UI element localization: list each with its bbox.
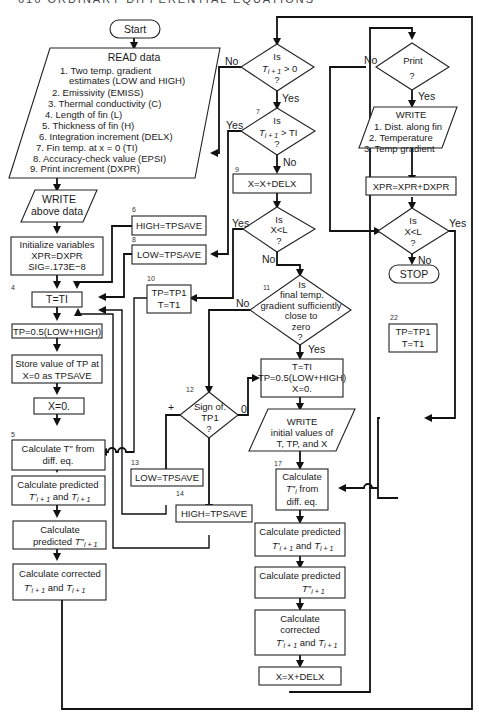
node-x-increment: 9 X=X+DELX — [233, 166, 311, 193]
decision-temp-positive: Is Ti + 1 > 0 ? No Yes — [225, 44, 314, 104]
svg-text:Yes: Yes — [308, 343, 325, 355]
node-x-zero: X=0. — [34, 398, 84, 414]
node-low-tpsave-13: 13 LOW=TPSAVE — [131, 459, 203, 486]
svg-text:12: 12 — [186, 386, 194, 393]
svg-text:Calculate predicted: Calculate predicted — [259, 526, 340, 537]
svg-text:No: No — [262, 253, 276, 265]
svg-text:9: 9 — [235, 166, 239, 173]
svg-text:T=TI: T=TI — [46, 293, 68, 305]
node-calc-predicted-2b: Calculate predicted T″i + 1 — [255, 567, 345, 598]
svg-text:4: 4 — [11, 284, 15, 291]
svg-text:TP=0.5(LOW+HIGH): TP=0.5(LOW+HIGH) — [258, 372, 346, 383]
svg-text:estimates (LOW and HIGH): estimates (LOW and HIGH) — [69, 75, 185, 86]
svg-text:No: No — [364, 54, 378, 66]
node-calc-corrected-2: Calculate corrected T′i + 1 and Ti + 1 — [255, 610, 345, 655]
svg-text:Calculate T″ from: Calculate T″ from — [22, 443, 95, 454]
svg-text:T=TI: T=TI — [292, 361, 312, 372]
svg-text:3. Temp gradient: 3. Temp gradient — [364, 143, 435, 154]
svg-text:No: No — [283, 156, 297, 168]
node-t-eq-ti: 4 T=TI — [11, 284, 82, 307]
node-calc-predicted-1b: Calculate predicted T′i + 1 and Ti + 1 — [255, 523, 345, 556]
node-low-tpsave: 8 LOW=TPSAVE — [132, 236, 206, 264]
node-tp-average: TP=0.5(LOW+HIGH) — [12, 324, 102, 338]
svg-text:close to: close to — [285, 310, 318, 321]
svg-text:+: + — [168, 401, 174, 413]
svg-text:9. Print increment (DXPR): 9. Print increment (DXPR) — [30, 163, 140, 174]
svg-text:3. Thermal conductivity (C): 3. Thermal conductivity (C) — [48, 98, 161, 109]
node-start: Start — [110, 20, 160, 38]
svg-text:?: ? — [274, 138, 279, 149]
node-xpr-increment: XPR=XPR+DXPR — [366, 177, 456, 195]
svg-text:7. Fin temp. at x = 0 (TI): 7. Fin temp. at x = 0 (TI) — [36, 142, 138, 153]
svg-text:T″i from: T″i from — [286, 483, 318, 495]
decision-temp-gt-ti: 7 Is Ti + 1 > TI ? Yes No — [226, 108, 315, 168]
svg-text:22: 22 — [390, 314, 398, 321]
svg-text:T=T1: T=T1 — [158, 299, 180, 310]
svg-text:LOW=TPSAVE: LOW=TPSAVE — [137, 249, 201, 260]
node-tp-tp1: 10 TP=TP1 T=T1 — [147, 275, 191, 313]
svg-text:No: No — [236, 297, 250, 309]
svg-text:Yes: Yes — [449, 217, 466, 229]
svg-text:No: No — [418, 254, 432, 266]
svg-text:?: ? — [274, 74, 279, 85]
svg-text:?: ? — [206, 423, 211, 434]
node-calc-second-deriv-17: 17 Calculate T″i from diff. eq. — [274, 460, 328, 510]
svg-text:Sign of.: Sign of. — [194, 401, 226, 412]
svg-text:0: 0 — [241, 403, 247, 415]
svg-text:Calculate: Calculate — [40, 524, 80, 535]
svg-text:X=X+DELX: X=X+DELX — [276, 671, 325, 682]
svg-text:1. Dist. along fin: 1. Dist. along fin — [374, 121, 442, 132]
svg-text:T, TP, and X: T, TP, and X — [277, 438, 329, 449]
svg-text:diff. eq.: diff. eq. — [43, 455, 74, 466]
node-high-tpsave-14: 14 HIGH=TPSAVE — [176, 490, 252, 522]
svg-text:Is: Is — [409, 215, 417, 226]
svg-text:Print: Print — [403, 55, 423, 66]
svg-text:Store value of TP at: Store value of TP at — [15, 358, 99, 369]
svg-text:Initialize variables: Initialize variables — [20, 239, 95, 250]
svg-text:?: ? — [410, 237, 415, 248]
node-reinitialize: T=TI TP=0.5(LOW+HIGH) X=0. — [258, 359, 346, 397]
flowchart: Start READ data 1. Two temp. gradient es… — [0, 0, 479, 714]
svg-text:XPR=DXPR: XPR=DXPR — [31, 250, 83, 261]
svg-text:READ data: READ data — [108, 51, 161, 63]
svg-text:Yes: Yes — [226, 119, 243, 131]
svg-text:XPR=XPR+DXPR: XPR=XPR+DXPR — [373, 181, 450, 192]
svg-text:4. Length of fin (L): 4. Length of fin (L) — [45, 109, 122, 120]
decision-gradient-zero: 11 Is final temp. gradient sufficiently … — [236, 275, 351, 355]
svg-text:LOW=TPSAVE: LOW=TPSAVE — [135, 472, 199, 483]
svg-text:2. Temperature: 2. Temperature — [369, 132, 433, 143]
node-calc-second-deriv: 5 Calculate T″ from diff. eq. — [11, 431, 105, 470]
svg-text:TP=0.5(LOW+HIGH): TP=0.5(LOW+HIGH) — [13, 326, 101, 337]
svg-text:diff. eq.: diff. eq. — [287, 496, 318, 507]
node-read-data: READ data 1. Two temp. gradient estimate… — [9, 48, 220, 178]
node-stop: STOP — [389, 265, 439, 283]
node-initialize: Initialize variables XPR=DXPR SIG=.173E−… — [11, 237, 103, 275]
svg-text:T=T1: T=T1 — [402, 338, 424, 349]
node-calc-predicted-1: Calculate predicted T′i + 1 and Ti + 1 — [12, 476, 105, 505]
decision-print: Print ? No Yes — [364, 43, 449, 102]
svg-text:2. Emissivity (EMISS): 2. Emissivity (EMISS) — [52, 87, 143, 98]
svg-text:Yes: Yes — [232, 217, 249, 229]
svg-text:8: 8 — [132, 236, 136, 243]
node-write-above: WRITE above data — [21, 190, 97, 222]
svg-text:TP=TP1: TP=TP1 — [151, 287, 186, 298]
svg-text:above data: above data — [31, 205, 83, 217]
node-write-initial: WRITE initial values of T, TP, and X — [249, 409, 355, 451]
node-calc-corrected: Calculate corrected T′i + 1 and Ti + 1 — [13, 564, 106, 600]
decision-sign-tp1: 12 Sign of. TP1 ? + 0 — [168, 386, 247, 438]
svg-text:?: ? — [297, 331, 302, 342]
svg-text:SIG=.173E−8: SIG=.173E−8 — [28, 261, 86, 272]
svg-text:X<L: X<L — [270, 224, 287, 235]
svg-text:X=X+DELX: X=X+DELX — [248, 178, 297, 189]
svg-text:Calculate: Calculate — [280, 613, 320, 624]
svg-text:corrected: corrected — [280, 624, 320, 635]
svg-text:17: 17 — [274, 460, 282, 467]
decision-x-lt-l: Is X<L ? Yes No — [232, 207, 315, 265]
svg-text:7: 7 — [256, 108, 260, 115]
svg-text:?: ? — [409, 70, 414, 81]
svg-text:Calculate predicted: Calculate predicted — [17, 479, 98, 490]
node-x-increment-2: X=X+DELX — [259, 667, 341, 685]
svg-text:Is: Is — [273, 51, 281, 62]
svg-text:Calculate corrected: Calculate corrected — [19, 568, 101, 579]
decision-x-lt-l-2: Is X<L ? Yes No — [378, 208, 466, 266]
